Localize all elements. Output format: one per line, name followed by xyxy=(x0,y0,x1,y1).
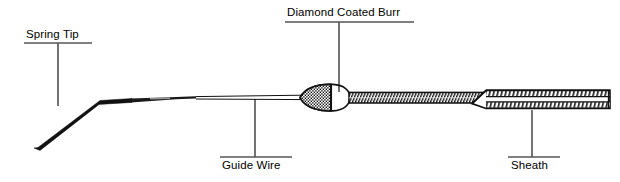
sheath-shape xyxy=(472,90,610,108)
leader-sheath xyxy=(508,110,560,157)
leader-guide-wire xyxy=(220,99,292,157)
annotation-label-diamond-coated-burr: Diamond Coated Burr xyxy=(287,6,400,19)
annotation-label-spring-tip: Spring Tip xyxy=(26,28,79,41)
drive-shaft-shape xyxy=(349,92,485,103)
annotation-label-sheath: Sheath xyxy=(511,159,548,172)
diagram-canvas: Spring Tip Diamond Coated Burr Guide Wir… xyxy=(0,0,620,182)
guide-wire-shape xyxy=(196,95,303,99)
leader-spring-tip xyxy=(24,43,92,106)
annotation-label-guide-wire: Guide Wire xyxy=(222,159,281,172)
device-illustration xyxy=(0,0,620,182)
burr-shape xyxy=(300,84,350,111)
leader-diamond-coated-burr xyxy=(285,22,414,92)
